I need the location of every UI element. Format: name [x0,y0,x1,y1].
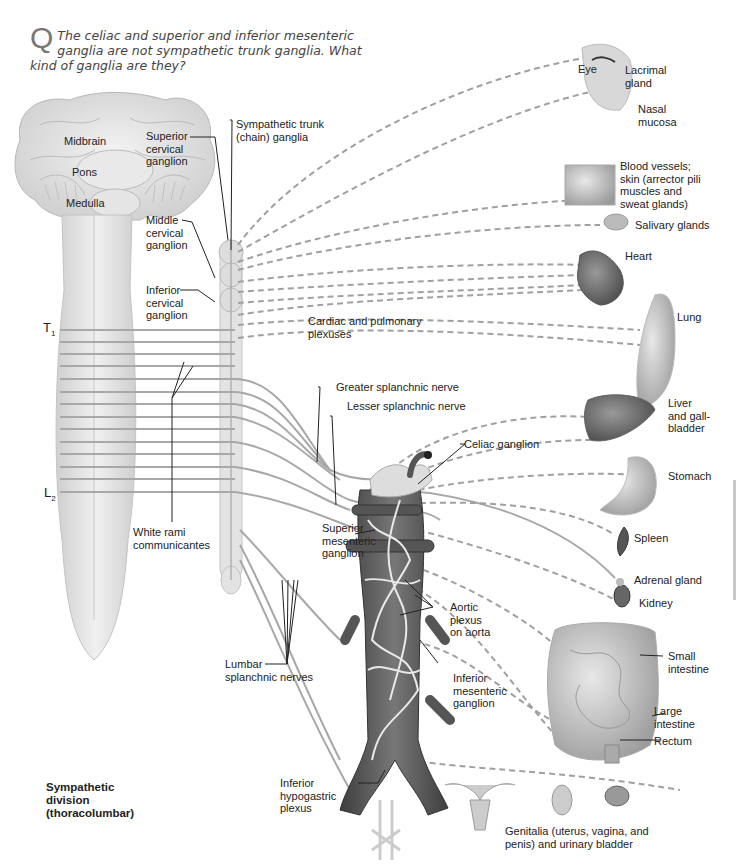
intestines-organ [548,623,659,760]
label-inferior-cervical-ganglion: Inferiorcervicalganglion [146,284,188,322]
label-lumbar-splanchnic-nerves: Lumbarsplanchnic nerves [225,658,313,683]
label-midbrain: Midbrain [64,135,106,148]
label-adrenal-gland: Adrenal gland [634,574,702,587]
spleen-organ [617,527,628,556]
label-celiac-ganglion: Celiac ganglion [464,438,539,451]
kidney-organ [614,585,630,607]
label-inferior-hypogastric-plexus: Inferiorhypogastricplexus [280,777,336,815]
label-large-intestine: Largeintestine [654,705,695,730]
label-rectum: Rectum [654,735,692,748]
label-lacrimal-gland: Lacrimalgland [625,64,667,89]
label-stomach: Stomach [668,470,711,483]
spinal-cord [56,215,136,660]
figure-title: Sympatheticdivision(thoracolumbar) [46,781,134,820]
aorta-illustration [340,451,450,860]
label-eye: Eye [578,63,597,76]
label-greater-splanchnic-nerve: Greater splanchnic nerve [336,381,459,394]
label-salivary-glands: Salivary glands [635,219,710,232]
label-genitalia-bladder: Genitalia (uterus, vagina, andpenis) and… [505,825,649,850]
label-medulla: Medulla [66,197,105,210]
label-nasal-mucosa: Nasalmucosa [638,103,677,128]
label-middle-cervical-ganglion: Middlecervicalganglion [146,214,188,252]
label-kidney: Kidney [639,597,673,610]
bladder-organ [605,786,629,806]
skin-block [565,165,615,205]
heart-organ [577,251,623,305]
label-cardiac-pulmonary-plexuses: Cardiac and pulmonaryplexuses [308,315,422,340]
label-heart: Heart [625,250,652,263]
label-white-rami-communicantes: White ramicommunicantes [133,526,210,551]
label-aortic-plexus: Aorticplexuson aorta [450,601,490,639]
stomach-organ [600,457,656,515]
uterus-organ [445,784,515,830]
label-blood-vessels-skin: Blood vessels;skin (arrector pilimuscles… [620,160,701,210]
label-pons: Pons [72,166,97,179]
label-superior-cervical-ganglion: Superiorcervicalganglion [146,130,188,168]
rectum-organ [605,745,619,763]
label-t1: T1 [43,322,55,340]
label-l2: L2 [44,487,56,505]
label-inferior-mesenteric-ganglion: Inferiormesentericganglion [453,672,507,710]
anatomy-illustration [0,0,736,866]
label-spleen: Spleen [634,532,668,545]
label-superior-mesenteric-ganglion: Superiormesentericganglion [322,522,376,560]
label-liver-gallbladder: Liverand gall-bladder [668,397,710,435]
label-small-intestine: Smallintestine [668,650,709,675]
label-lung: Lung [677,311,701,324]
salivary-gland [604,214,628,230]
lung-organ [637,294,675,410]
adrenal-organ [616,578,624,586]
liver-organ [584,395,655,441]
label-lesser-splanchnic-nerve: Lesser splanchnic nerve [347,400,466,413]
label-sympathetic-trunk: Sympathetic trunk(chain) ganglia [236,118,324,143]
penis-organ [552,785,572,815]
